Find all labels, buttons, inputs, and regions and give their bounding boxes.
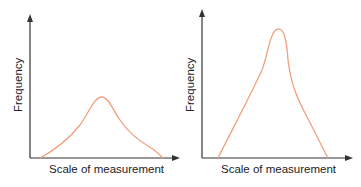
y-axis-label: Frequency — [12, 57, 24, 112]
chart-right: Scale of measurement Frequency — [184, 13, 349, 175]
y-axis-label: Frequency — [184, 57, 196, 112]
x-axis-label: Scale of measurement — [49, 163, 165, 175]
distribution-curve — [218, 29, 328, 158]
distribution-curve — [40, 97, 163, 158]
chart-canvas: Scale of measurement Frequency Scale of … — [0, 0, 361, 187]
x-axis-label: Scale of measurement — [221, 163, 337, 175]
chart-left: Scale of measurement Frequency — [12, 18, 176, 175]
